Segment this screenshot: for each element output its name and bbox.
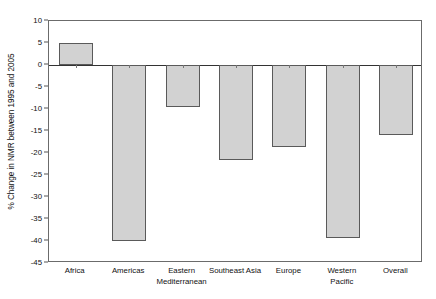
bar-chart: % Change in NMR between 1995 and 2005 10…	[0, 0, 436, 299]
bar	[59, 43, 93, 65]
x-tick-label-line1: Southeast Asia	[209, 266, 261, 277]
x-tick-label-line1: Americas	[112, 266, 145, 277]
x-tick-label-line1: Eastern	[156, 266, 206, 277]
x-tick-label: EasternMediterranean	[156, 266, 206, 287]
y-tick-label: -25	[31, 170, 42, 179]
x-tick-label: Europe	[276, 266, 301, 277]
x-tick-mark	[129, 65, 130, 68]
x-tick-mark	[396, 65, 397, 68]
x-tick-mark	[76, 65, 77, 68]
y-tick-label: -20	[31, 148, 42, 157]
x-tick-label: Overall	[383, 266, 408, 277]
y-tick-label: 10	[33, 16, 42, 25]
x-tick-label-line1: Africa	[65, 266, 85, 277]
x-tick-label-line1: Europe	[276, 266, 301, 277]
y-tick-label: -5	[35, 82, 42, 91]
x-tick-label-line1: Western	[327, 266, 356, 277]
x-tick-label-line2: Mediterranean	[156, 277, 206, 288]
y-tick-label: -40	[31, 236, 42, 245]
y-axis-tick-labels: 1050-5-10-15-20-25-30-35-40-45	[20, 20, 48, 262]
y-tick-label: 0	[38, 60, 42, 69]
x-tick-label: WesternPacific	[327, 266, 356, 287]
plot-area	[48, 20, 422, 262]
x-tick-label: Southeast Asia	[209, 266, 261, 277]
x-tick-mark	[289, 65, 290, 68]
plot-inner	[49, 21, 421, 261]
x-tick-label-line1: Overall	[383, 266, 408, 277]
x-tick-mark	[183, 65, 184, 68]
x-tick-label-line2: Pacific	[327, 277, 356, 288]
bar	[326, 65, 360, 238]
y-tick-label: -10	[31, 104, 42, 113]
y-tick-label: -35	[31, 214, 42, 223]
y-tick-label: 5	[38, 38, 42, 47]
x-tick-label: Americas	[112, 266, 145, 277]
x-tick-label: Africa	[65, 266, 85, 277]
y-tick-label: -15	[31, 126, 42, 135]
x-axis-tick-labels: AfricaAmericasEasternMediterraneanSouthe…	[48, 266, 422, 299]
bar	[272, 65, 306, 147]
x-tick-mark	[343, 65, 344, 68]
bar	[219, 65, 253, 160]
y-axis-title-text: % Change in NMR between 1995 and 2005	[7, 53, 16, 209]
x-tick-mark	[236, 65, 237, 68]
y-axis-title: % Change in NMR between 1995 and 2005	[0, 0, 22, 262]
bar	[379, 65, 413, 135]
bar	[112, 65, 146, 241]
y-tick-label: -45	[31, 258, 42, 267]
bar	[166, 65, 200, 107]
y-tick-label: -30	[31, 192, 42, 201]
